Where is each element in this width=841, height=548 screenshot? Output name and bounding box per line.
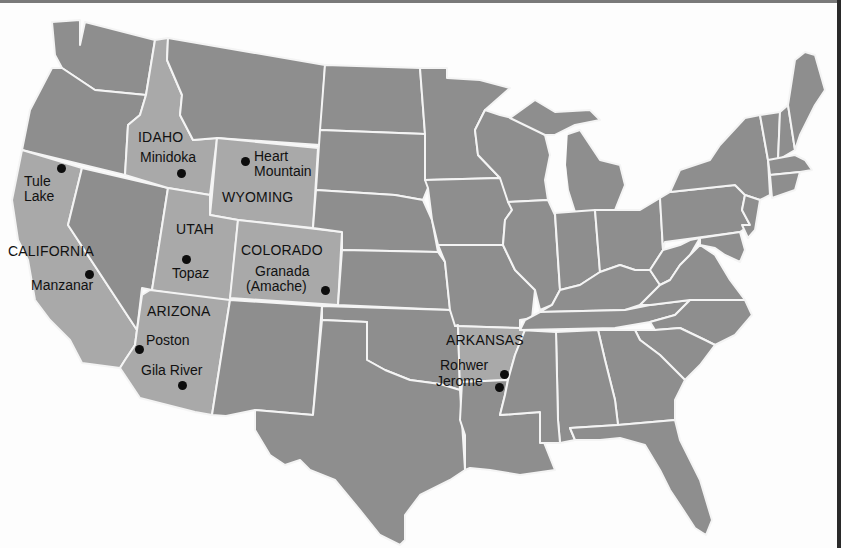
camp-label-heart-mountain-1: Heart [254, 149, 288, 164]
camp-label-poston: Poston [146, 333, 190, 348]
state-new-mexico [212, 300, 322, 416]
camp-label-gila-river: Gila River [141, 363, 202, 378]
label-california: CALIFORNIA [8, 244, 94, 259]
label-colorado: COLORADO [241, 243, 323, 258]
camp-marker-topaz[interactable] [182, 255, 191, 264]
label-idaho: IDAHO [138, 130, 183, 145]
camp-marker-poston[interactable] [135, 345, 144, 354]
camp-label-heart-mountain-2: Mountain [254, 164, 312, 179]
camp-label-minidoka: Minidoka [140, 150, 196, 165]
state-iowa [425, 178, 512, 245]
state-michigan-lower [565, 130, 625, 212]
camp-label-manzanar: Manzanar [31, 278, 93, 293]
state-montana [167, 38, 325, 145]
camp-label-tule-lake-2: Lake [24, 189, 54, 204]
camp-label-jerome: Jerome [436, 374, 483, 389]
state-florida [570, 420, 712, 535]
camp-label-topaz: Topaz [172, 266, 209, 281]
camp-marker-heart-mountain[interactable] [241, 157, 250, 166]
state-kansas [338, 250, 450, 310]
camp-label-granada-1: Granada [255, 264, 309, 279]
label-wyoming: WYOMING [222, 190, 293, 205]
camp-marker-gila-river[interactable] [178, 381, 187, 390]
camp-marker-rohwer[interactable] [500, 370, 509, 379]
label-utah: UTAH [176, 222, 214, 237]
state-new-york [670, 115, 770, 200]
page-edge-right [837, 0, 841, 548]
state-connecticut [770, 172, 800, 198]
label-arkansas: ARKANSAS [446, 333, 524, 348]
camp-marker-granada[interactable] [321, 286, 330, 295]
state-new-jersey [742, 195, 760, 238]
state-north-dakota [320, 65, 425, 134]
camp-marker-minidoka[interactable] [177, 169, 186, 178]
label-arizona: ARIZONA [147, 304, 211, 319]
state-ohio [595, 198, 663, 272]
state-south-dakota [316, 130, 428, 200]
camp-label-rohwer: Rohwer [440, 358, 488, 373]
us-map [0, 0, 841, 548]
camp-label-granada-2: (Amache) [246, 279, 307, 294]
camp-marker-jerome[interactable] [495, 383, 504, 392]
state-maine [788, 52, 825, 150]
lake-michigan [550, 130, 568, 212]
camp-marker-tule-lake[interactable] [57, 164, 66, 173]
camp-label-tule-lake-1: Tule [24, 174, 51, 189]
